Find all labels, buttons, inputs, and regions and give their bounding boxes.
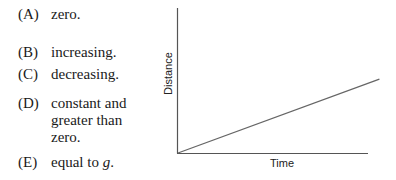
x-axis-label: Time xyxy=(270,157,294,169)
data-line xyxy=(178,79,379,153)
distance-time-chart xyxy=(0,0,396,180)
y-axis-label: Distance xyxy=(162,52,174,95)
